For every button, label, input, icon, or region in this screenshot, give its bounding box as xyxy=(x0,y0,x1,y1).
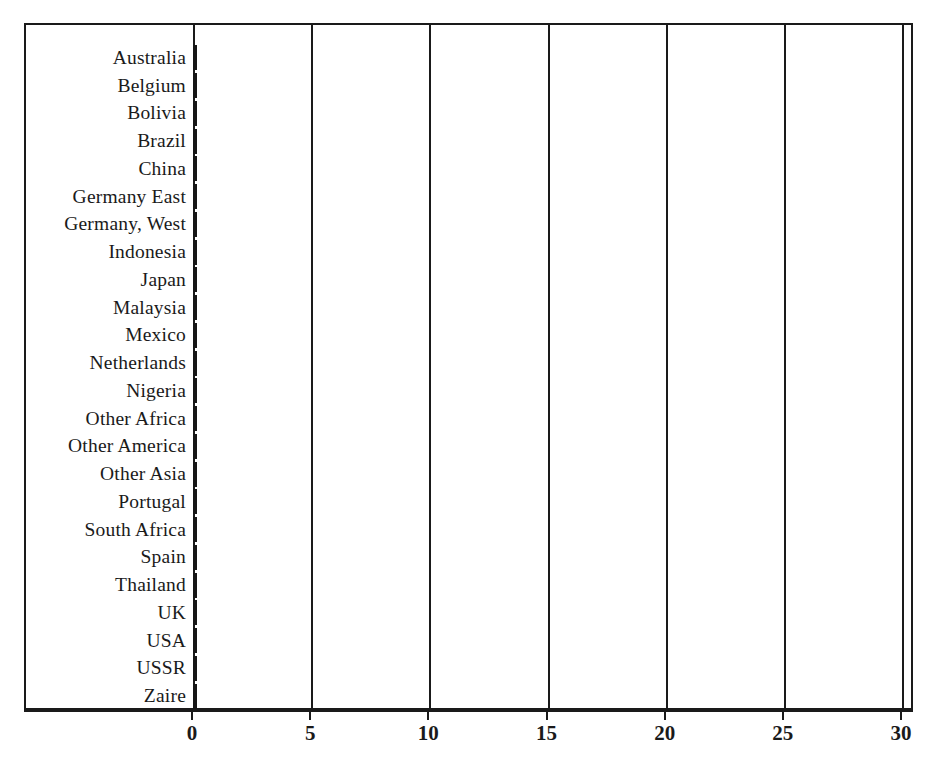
bar-row: Other Africa xyxy=(26,405,911,433)
x-tick-label: 20 xyxy=(654,723,675,744)
bar: China xyxy=(193,156,659,181)
bar-row: USSR xyxy=(26,655,911,683)
bar: Nigeria xyxy=(193,378,262,403)
category-label: Other Asia xyxy=(100,464,193,484)
category-label: USSR xyxy=(136,659,193,679)
x-tick-20 xyxy=(664,710,666,720)
category-label: Nigeria xyxy=(126,381,193,401)
bar-fill xyxy=(193,489,197,514)
bar-fill xyxy=(193,129,197,154)
bar-fill xyxy=(193,656,197,681)
bar-fill xyxy=(193,462,197,487)
bar-row: Germany East xyxy=(26,183,911,211)
x-tick-10 xyxy=(427,710,429,720)
bar-row: China xyxy=(26,155,911,183)
bar-fill xyxy=(193,295,197,320)
category-label: Other America xyxy=(68,437,193,457)
category-label: Brazil xyxy=(137,131,193,151)
bar-fill xyxy=(193,573,197,598)
bar-row: Other America xyxy=(26,433,911,461)
bar-fill xyxy=(193,434,197,459)
bar-row: Other Asia xyxy=(26,460,911,488)
bar-fill xyxy=(193,240,197,265)
bar-row: Zaire xyxy=(26,682,911,710)
bar-row: Netherlands xyxy=(26,349,911,377)
bar: Germany, West xyxy=(193,212,302,237)
category-label: UK xyxy=(157,603,193,623)
bar-fill xyxy=(193,101,197,126)
bar: Indonesia xyxy=(193,240,793,265)
bar: Other Asia xyxy=(193,462,238,487)
bar-fill xyxy=(193,323,197,348)
bar-row: UK xyxy=(26,599,911,627)
bar-fill xyxy=(193,378,197,403)
category-label: Belgium xyxy=(117,76,193,96)
category-label: Australia xyxy=(113,48,193,68)
bar: UK xyxy=(193,600,436,625)
bar-fill xyxy=(193,545,197,570)
bar: Belgium xyxy=(193,73,269,98)
bar-fill xyxy=(193,212,197,237)
category-label: Spain xyxy=(141,548,193,568)
x-tick-label: 25 xyxy=(772,723,793,744)
bar-row: Nigeria xyxy=(26,377,911,405)
bar-fill xyxy=(193,517,197,542)
bar: Australia xyxy=(193,45,318,70)
category-label: Japan xyxy=(141,270,193,290)
x-tick-0 xyxy=(191,710,193,720)
bar-fill xyxy=(193,684,197,709)
bar: Malaysia xyxy=(193,295,633,320)
category-label: South Africa xyxy=(84,520,193,540)
bar-fill xyxy=(193,73,197,98)
category-label: USA xyxy=(146,631,193,651)
x-tick-label: 30 xyxy=(891,723,912,744)
category-label: China xyxy=(138,159,193,179)
plot-frame: AustraliaBelgiumBoliviaBrazilChinaGerman… xyxy=(24,23,913,710)
category-label: Malaysia xyxy=(113,298,193,318)
x-tick-label: 15 xyxy=(536,723,557,744)
bar-row: Thailand xyxy=(26,571,911,599)
bar-fill xyxy=(193,406,197,431)
category-label: Thailand xyxy=(115,575,193,595)
bar-row: Malaysia xyxy=(26,294,911,322)
bar-row: Mexico xyxy=(26,322,911,350)
bar-row: Spain xyxy=(26,544,911,572)
bar-row: Australia xyxy=(26,44,911,72)
bar: Netherlands xyxy=(193,351,231,376)
bar: South Africa xyxy=(193,517,228,542)
bar: Mexico xyxy=(193,323,197,348)
x-tick-15 xyxy=(546,710,548,720)
bar: USSR xyxy=(193,656,604,681)
bar: Spain xyxy=(193,545,302,570)
bar: USA xyxy=(193,628,328,653)
bar-fill xyxy=(193,351,197,376)
category-label: Germany East xyxy=(73,187,193,207)
bar-row: Portugal xyxy=(26,488,911,516)
category-label: Indonesia xyxy=(108,242,193,262)
bar-fill xyxy=(193,628,197,653)
category-label: Netherlands xyxy=(90,353,193,373)
bar-chart: AustraliaBelgiumBoliviaBrazilChinaGerman… xyxy=(0,0,939,765)
x-tick-label: 0 xyxy=(187,723,198,744)
bar: Thailand xyxy=(193,573,869,598)
category-label: Germany, West xyxy=(64,215,193,235)
bar-row: Japan xyxy=(26,266,911,294)
bar-row: Belgium xyxy=(26,72,911,100)
bar: Other America xyxy=(193,434,197,459)
bar-fill xyxy=(193,45,197,70)
bar: Brazil xyxy=(193,129,389,154)
bar-fill xyxy=(193,267,197,292)
category-label: Other Africa xyxy=(86,409,193,429)
bar-fill xyxy=(193,600,197,625)
bar: Bolivia xyxy=(193,101,569,126)
x-tick-30 xyxy=(900,710,902,720)
bar: Portugal xyxy=(193,489,200,514)
bar-fill xyxy=(193,184,197,209)
bar: Other Africa xyxy=(193,406,204,431)
bar-row: Indonesia xyxy=(26,238,911,266)
category-label: Mexico xyxy=(125,326,193,346)
bar: Japan xyxy=(193,267,214,292)
bar-rows: AustraliaBelgiumBoliviaBrazilChinaGerman… xyxy=(26,25,911,708)
bar-row: Brazil xyxy=(26,127,911,155)
x-tick-5 xyxy=(309,710,311,720)
